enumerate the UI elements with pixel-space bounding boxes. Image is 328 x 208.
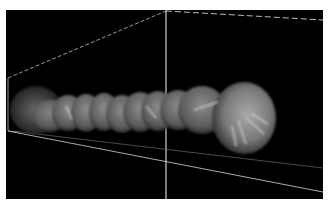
volume-render <box>6 10 323 199</box>
tubular-structure <box>10 82 276 154</box>
render-viewport <box>6 10 323 199</box>
